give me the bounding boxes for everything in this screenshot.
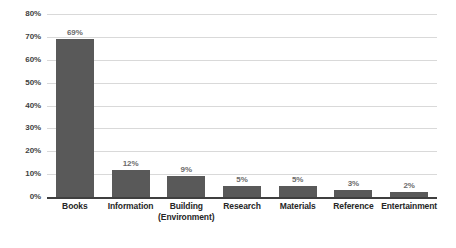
bar-slot: 9%	[167, 14, 205, 197]
x-axis-category-label: Materials	[266, 201, 330, 212]
bar-slot: 5%	[279, 14, 317, 197]
x-label-line: Information	[108, 201, 154, 211]
x-axis-category-label: Building(Environment)	[154, 201, 218, 223]
bar-value-label: 5%	[271, 175, 325, 184]
bar[interactable]	[56, 39, 94, 197]
x-label-line: Building	[170, 201, 203, 211]
axis-baseline	[47, 197, 437, 199]
y-tick-label-20: 20%	[0, 146, 41, 155]
y-tick-label-70: 70%	[0, 32, 41, 41]
bar-slot: 5%	[223, 14, 261, 197]
y-tick-label-30: 30%	[0, 123, 41, 132]
x-axis-category-label: Information	[99, 201, 163, 212]
x-axis-category-label: Research	[210, 201, 274, 212]
bar[interactable]	[112, 170, 150, 197]
bars-group: 69%12%9%5%5%3%2%	[47, 14, 437, 197]
x-label-line: Reference	[333, 201, 373, 211]
bar[interactable]	[279, 186, 317, 197]
bar[interactable]	[223, 186, 261, 197]
bar-value-label: 12%	[104, 159, 158, 168]
y-tick-label-0: 0%	[0, 192, 41, 201]
bar-slot: 69%	[56, 14, 94, 197]
bar-value-label: 9%	[159, 165, 213, 174]
y-tick-label-40: 40%	[0, 101, 41, 110]
bar[interactable]	[334, 190, 372, 197]
bar[interactable]	[167, 176, 205, 197]
bar-slot: 12%	[112, 14, 150, 197]
bar-value-label: 2%	[382, 181, 436, 190]
x-label-line: Materials	[280, 201, 316, 211]
bar[interactable]	[390, 192, 428, 197]
y-tick-label-10: 10%	[0, 169, 41, 178]
x-axis-category-label: Reference	[322, 201, 386, 212]
x-label-line: Research	[223, 201, 260, 211]
bar-slot: 2%	[390, 14, 428, 197]
bar-chart: 0%10%20%30%40%50%60%70%80% 69%12%9%5%5%3…	[0, 0, 456, 248]
x-label-line: Books	[62, 201, 87, 211]
bar-value-label: 5%	[215, 175, 269, 184]
bar-value-label: 69%	[48, 28, 102, 37]
x-label-line: Entertainment	[381, 201, 437, 211]
y-tick-label-80: 80%	[0, 9, 41, 18]
y-tick-label-60: 60%	[0, 55, 41, 64]
x-axis-category-label: Books	[43, 201, 107, 212]
y-tick-label-50: 50%	[0, 78, 41, 87]
bar-slot: 3%	[334, 14, 372, 197]
x-axis: BooksInformationBuilding(Environment)Res…	[47, 201, 437, 248]
bar-value-label: 3%	[326, 179, 380, 188]
x-label-line: (Environment)	[154, 212, 218, 223]
x-axis-category-label: Entertainment	[377, 201, 441, 212]
